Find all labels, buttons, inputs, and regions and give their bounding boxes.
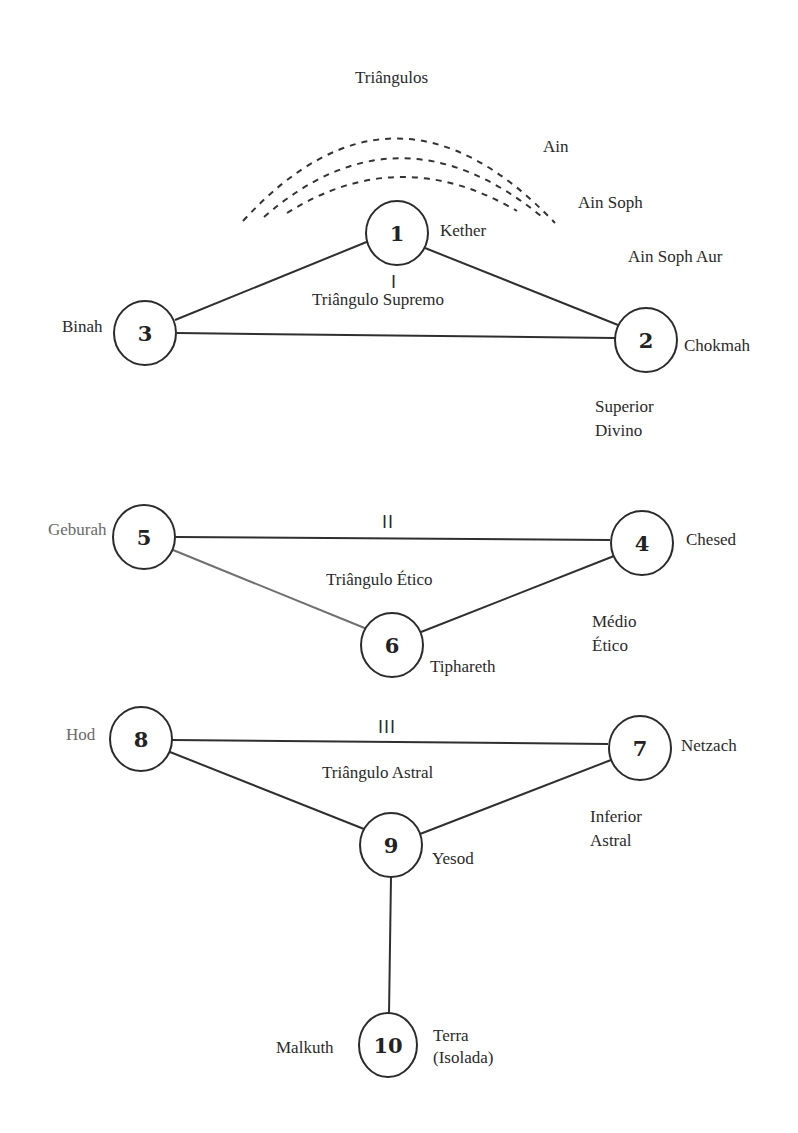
edge-3-2: [177, 333, 615, 338]
node-number: 3: [138, 321, 153, 346]
node-number: 8: [134, 727, 149, 752]
node-name-tiphareth: Tiphareth: [430, 657, 496, 676]
roman-numeral-ii: II: [382, 512, 394, 532]
label-ain-soph-aur: Ain Soph Aur: [628, 247, 723, 266]
triangle-name-astral: Triângulo Astral: [322, 763, 434, 782]
node-number: 4: [635, 531, 650, 556]
node-8: 8: [110, 707, 172, 771]
node-10: 10: [359, 1013, 417, 1077]
tree-of-life-triangles-diagram: Triângulos Ain Ain Soph Ain Soph Aur I I…: [0, 0, 798, 1133]
node-number: 2: [639, 328, 654, 353]
edge-5-6: [173, 550, 367, 629]
earth-label-isolada: (Isolada): [433, 1048, 493, 1067]
node-3: 3: [114, 301, 176, 365]
edge-1-2: [425, 248, 618, 325]
diagram-title: Triângulos: [355, 68, 428, 87]
edge-9-10: [389, 877, 391, 1014]
node-7: 7: [609, 716, 671, 780]
node-name-geburah: Geburah: [48, 520, 107, 539]
level-inferior: Inferior: [590, 807, 642, 826]
node-9: 9: [360, 813, 422, 877]
node-number: 6: [385, 633, 400, 658]
level-divino: Divino: [595, 421, 642, 440]
label-ain: Ain: [543, 137, 569, 156]
node-name-malkuth: Malkuth: [276, 1038, 334, 1057]
level-astral: Astral: [590, 831, 632, 850]
node-2: 2: [615, 308, 677, 372]
edge-9-7: [420, 760, 611, 834]
roman-numeral-i: I: [391, 272, 397, 292]
edge-8-7: [172, 740, 608, 744]
node-name-netzach: Netzach: [681, 736, 737, 755]
node-number: 1: [390, 221, 405, 246]
node-name-kether: Kether: [440, 221, 487, 240]
label-ain-soph: Ain Soph: [578, 193, 643, 212]
node-name-binah: Binah: [62, 317, 103, 336]
node-name-chesed: Chesed: [686, 530, 737, 549]
level-medio: Médio: [592, 612, 636, 631]
node-number: 5: [137, 525, 152, 550]
edge-6-4: [421, 556, 614, 632]
roman-numeral-iii: III: [378, 717, 396, 737]
node-number: 9: [384, 833, 399, 858]
edge-5-4: [176, 537, 610, 540]
node-1: 1: [366, 201, 428, 265]
earth-label-terra: Terra: [433, 1026, 469, 1045]
node-number: 7: [633, 736, 648, 761]
triangle-name-supremo: Triângulo Supremo: [312, 290, 444, 309]
level-etico: Ético: [592, 636, 628, 655]
level-superior: Superior: [595, 397, 654, 416]
node-name-chokmah: Chokmah: [684, 336, 751, 355]
node-number: 10: [373, 1033, 402, 1058]
node-name-hod: Hod: [66, 725, 96, 744]
node-5: 5: [113, 505, 175, 569]
node-6: 6: [361, 613, 423, 677]
triangle-name-etico: Triângulo Ético: [326, 570, 433, 589]
node-4: 4: [611, 511, 673, 575]
node-name-yesod: Yesod: [432, 849, 474, 868]
